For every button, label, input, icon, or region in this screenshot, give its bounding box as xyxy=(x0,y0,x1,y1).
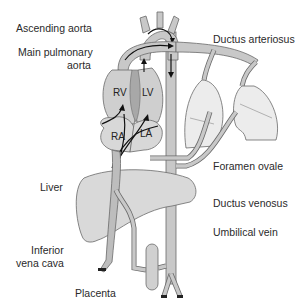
label-liver: Liver xyxy=(40,181,63,193)
label-umbilical-vein: Umbilical vein xyxy=(213,226,278,238)
label-main-pulmonary-line2: aorta xyxy=(67,59,91,71)
label-foramen-ovale: Foramen ovale xyxy=(213,160,283,172)
label-placenta: Placenta xyxy=(75,287,116,299)
label-ivc-line1: Inferior xyxy=(31,244,64,256)
label-ivc-line2: vena cava xyxy=(16,257,64,269)
placenta xyxy=(146,244,158,290)
heart: RV LV RA LA xyxy=(101,58,163,168)
label-ductus-venosus: Ductus venosus xyxy=(213,197,288,209)
label-main-pulmonary-line1: Main pulmonary xyxy=(18,46,93,58)
label-ductus-arteriosus: Ductus arteriosus xyxy=(213,33,295,45)
chamber-lv: LV xyxy=(142,87,154,98)
right-lung xyxy=(234,86,278,140)
chamber-rv: RV xyxy=(113,87,127,98)
label-ascending-aorta: Ascending aorta xyxy=(16,22,92,34)
